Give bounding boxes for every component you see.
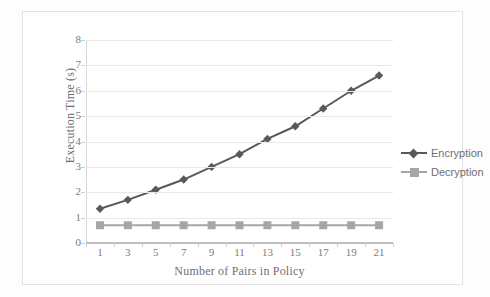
x-tick-mark xyxy=(198,243,199,247)
x-tick-mark xyxy=(86,243,87,247)
y-tick-label: 8 xyxy=(55,34,81,45)
legend-item-decryption[interactable]: Decryption xyxy=(401,162,481,181)
x-tick-mark xyxy=(253,243,254,247)
chart-legend: Encryption Decryption xyxy=(401,143,481,181)
x-tick-label: 7 xyxy=(172,247,196,258)
y-tick-mark xyxy=(81,192,85,193)
legend-label: Decryption xyxy=(431,166,484,178)
data-point-square-marker xyxy=(375,221,383,229)
plot-area xyxy=(86,40,393,243)
data-point-square-marker xyxy=(263,221,271,229)
x-tick-label: 9 xyxy=(200,247,224,258)
y-tick-mark xyxy=(81,218,85,219)
data-point-square-marker xyxy=(180,221,188,229)
data-point-square-marker xyxy=(152,221,160,229)
y-tick-label: 2 xyxy=(55,186,81,197)
x-tick-mark xyxy=(170,243,171,247)
y-tick-mark xyxy=(81,91,85,92)
data-point-diamond-marker xyxy=(96,205,104,213)
x-tick-label: 15 xyxy=(283,247,307,258)
gridline xyxy=(86,142,393,143)
x-tick-mark xyxy=(393,243,394,247)
x-axis-tick-labels: 13579111315171921 xyxy=(86,247,393,263)
chart-frame: Execution Time (s) 876543210 13579111315… xyxy=(22,11,463,285)
y-tick-label: 3 xyxy=(55,161,81,172)
data-point-square-marker xyxy=(347,221,355,229)
x-tick-mark xyxy=(281,243,282,247)
x-tick-label: 3 xyxy=(116,247,140,258)
data-point-square-marker xyxy=(319,221,327,229)
y-tick-mark xyxy=(81,243,85,244)
data-point-diamond-marker xyxy=(124,196,132,204)
x-tick-label: 13 xyxy=(255,247,279,258)
x-tick-label: 5 xyxy=(144,247,168,258)
x-tick-mark xyxy=(114,243,115,247)
x-axis-title: Number of Pairs in Policy xyxy=(86,264,393,279)
x-tick-mark xyxy=(337,243,338,247)
diamond-marker-icon xyxy=(401,147,427,159)
x-tick-label: 19 xyxy=(339,247,363,258)
data-point-square-marker xyxy=(291,221,299,229)
data-point-square-marker xyxy=(124,221,132,229)
y-tick-mark xyxy=(81,167,85,168)
x-tick-label: 17 xyxy=(311,247,335,258)
gridline xyxy=(86,65,393,66)
x-tick-mark xyxy=(365,243,366,247)
y-axis-tick-labels: 876543210 xyxy=(51,40,81,243)
x-tick-label: 11 xyxy=(228,247,252,258)
data-point-square-marker xyxy=(236,221,244,229)
gridline xyxy=(86,218,393,219)
y-tick-label: 7 xyxy=(55,59,81,70)
data-point-square-marker xyxy=(96,221,104,229)
gridline xyxy=(86,116,393,117)
gridline xyxy=(86,40,393,41)
gridline xyxy=(86,167,393,168)
legend-item-encryption[interactable]: Encryption xyxy=(401,143,481,162)
x-tick-label: 1 xyxy=(88,247,112,258)
x-tick-mark xyxy=(226,243,227,247)
y-tick-label: 5 xyxy=(55,110,81,121)
x-tick-mark xyxy=(142,243,143,247)
legend-label: Encryption xyxy=(431,147,483,159)
data-point-diamond-marker xyxy=(179,175,187,183)
gridline xyxy=(86,243,393,244)
y-tick-mark xyxy=(81,40,85,41)
y-tick-mark xyxy=(81,116,85,117)
y-tick-mark xyxy=(81,142,85,143)
y-tick-label: 4 xyxy=(55,136,81,147)
gridline xyxy=(86,91,393,92)
x-tick-label: 21 xyxy=(367,247,391,258)
gridline xyxy=(86,192,393,193)
square-marker-icon xyxy=(401,166,427,178)
data-point-diamond-marker xyxy=(375,71,383,79)
data-point-square-marker xyxy=(208,221,216,229)
y-tick-label: 1 xyxy=(55,212,81,223)
y-tick-label: 0 xyxy=(55,237,81,248)
x-tick-mark xyxy=(309,243,310,247)
y-tick-label: 6 xyxy=(55,85,81,96)
data-point-diamond-marker xyxy=(235,150,243,158)
chart-figure: Execution Time (s) 876543210 13579111315… xyxy=(0,0,490,297)
y-tick-mark xyxy=(81,65,85,66)
